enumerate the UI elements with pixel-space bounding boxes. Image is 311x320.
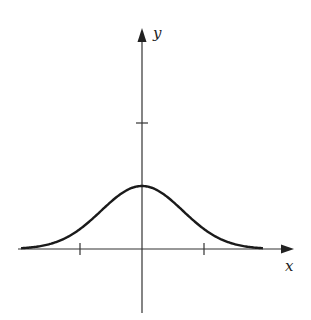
y-axis-arrow-icon	[138, 28, 147, 42]
bell-curve-chart: y x	[0, 0, 311, 320]
y-axis-label: y	[152, 24, 162, 42]
x-axis-arrow-icon	[281, 245, 294, 254]
x-axis-label: x	[285, 257, 294, 275]
